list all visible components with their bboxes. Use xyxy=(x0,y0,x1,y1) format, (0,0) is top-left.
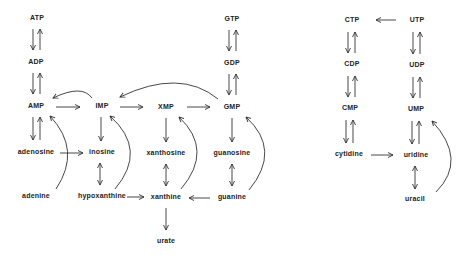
node-uridine: uridine xyxy=(404,151,429,158)
pyrimidine-nodes: CTP UTP CDP UDP CMP UMP cytidine uridine… xyxy=(335,16,428,202)
node-urate: urate xyxy=(157,237,175,244)
node-gmp: GMP xyxy=(224,103,241,110)
node-atp: ATP xyxy=(30,14,44,21)
node-utp: UTP xyxy=(410,16,425,23)
node-amp: AMP xyxy=(28,102,44,109)
nucleotide-pathway-diagram: ATP ADP AMP IMP XMP GMP GDP GTP adenosin… xyxy=(0,0,464,255)
node-adenine: adenine xyxy=(22,192,50,199)
node-adenosine: adenosine xyxy=(18,148,54,155)
node-ctp: CTP xyxy=(345,16,360,23)
arrow-uracil-to-ump-curve xyxy=(432,121,451,192)
node-cdp: CDP xyxy=(344,60,360,67)
node-udp: UDP xyxy=(409,61,425,68)
node-imp: IMP xyxy=(95,102,108,109)
node-xanthine: xanthine xyxy=(151,193,181,200)
arrow-gmp-to-imp-curve xyxy=(120,83,218,99)
node-guanosine: guanosine xyxy=(214,149,251,157)
node-inosine: inosine xyxy=(89,148,115,155)
purine-nodes: ATP ADP AMP IMP XMP GMP GDP GTP adenosin… xyxy=(18,14,251,244)
node-xmp: XMP xyxy=(158,103,174,110)
node-uracil: uracil xyxy=(405,195,425,202)
node-ump: UMP xyxy=(408,105,424,112)
node-xanthosine: xanthosine xyxy=(147,149,186,156)
pyrimidine-edges xyxy=(346,20,451,192)
node-adp: ADP xyxy=(28,58,44,65)
node-cytidine: cytidine xyxy=(335,150,363,158)
node-cmp: CMP xyxy=(342,104,358,111)
node-hypoxanthine: hypoxanthine xyxy=(78,192,126,200)
node-guanine: guanine xyxy=(218,193,246,201)
node-gtp: GTP xyxy=(225,15,240,22)
node-gdp: GDP xyxy=(224,59,240,66)
arrow-imp-to-amp-curve xyxy=(53,91,92,98)
